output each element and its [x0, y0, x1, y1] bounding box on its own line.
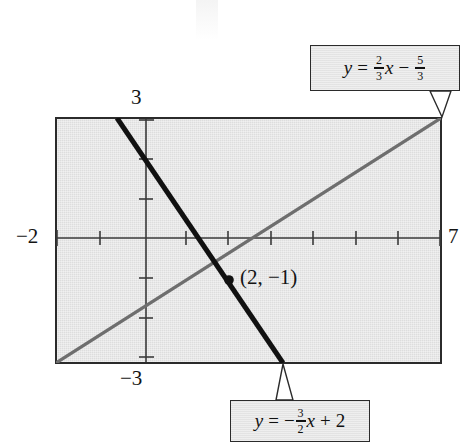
equation-line2-operator: +	[320, 410, 331, 432]
equation-line1-operator: −	[398, 57, 409, 79]
equation-line2-lhs: y	[255, 410, 263, 432]
equation-line1-lhs: y	[344, 57, 352, 79]
equation-line1-slope-fraction: 2 3	[374, 54, 384, 83]
equation-callout-line2: y = − 3 2 x + 2	[230, 400, 370, 442]
equation-line1-equals: =	[357, 57, 368, 79]
callout-leader-top	[430, 91, 451, 117]
intersection-point-marker	[224, 275, 234, 285]
equation-line1-variable: x	[385, 57, 393, 79]
equation-line1-constant-fraction: 5 3	[415, 54, 425, 83]
equation-line2-slope-denominator: 2	[296, 423, 306, 436]
x-axis-max-label: 7	[448, 224, 459, 249]
equation-line1-slope-numerator: 2	[374, 54, 384, 67]
line-two-thirds-x-minus-five-thirds	[56, 118, 441, 363]
equation-line2-slope-numerator: 3	[296, 407, 306, 420]
callout-leader-bottom	[276, 364, 293, 400]
equation-line1: y = 2 3 x − 5 3	[344, 54, 426, 83]
equation-line2-sign: −	[284, 410, 295, 432]
y-axis-max-label: 3	[131, 85, 142, 110]
equation-line1-constant-denominator: 3	[415, 70, 425, 83]
equation-line2-variable: x	[307, 410, 315, 432]
equation-callout-line1: y = 2 3 x − 5 3	[310, 45, 460, 91]
equation-line2: y = − 3 2 x + 2	[255, 407, 346, 436]
y-axis-min-label: −3	[120, 366, 142, 391]
graph-figure: −2 7 3 −3 (2, −1) y = 2 3 x − 5 3 y =	[0, 0, 474, 445]
line-minus-three-halves-x-plus-two	[117, 118, 283, 363]
equation-line2-constant: 2	[336, 410, 346, 432]
equation-line1-constant-numerator: 5	[415, 54, 425, 67]
equation-line2-slope-fraction: 3 2	[296, 407, 306, 436]
equation-line1-slope-denominator: 3	[374, 70, 384, 83]
intersection-point-label: (2, −1)	[240, 265, 297, 290]
equation-line2-equals: =	[268, 410, 279, 432]
x-axis-min-label: −2	[16, 224, 38, 249]
